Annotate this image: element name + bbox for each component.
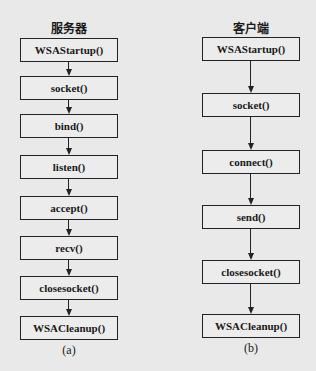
- client-arrow-line: [250, 117, 251, 143]
- arrow-down-icon: [66, 309, 72, 316]
- arrow-down-icon: [248, 198, 254, 205]
- arrow-down-icon: [66, 69, 72, 76]
- client-arrow-line: [250, 284, 251, 307]
- arrow-down-icon: [66, 269, 72, 276]
- client-arrow-line: [250, 174, 251, 198]
- arrow-down-icon: [248, 143, 254, 150]
- client-arrow-line: [250, 229, 251, 253]
- arrow-down-icon: [66, 189, 72, 196]
- client-step-connect: connect(): [202, 150, 300, 174]
- server-step-wsastartup: WSAStartup(): [20, 38, 118, 62]
- server-arrow-line: [68, 300, 69, 309]
- arrow-down-icon: [248, 86, 254, 93]
- arrow-down-icon: [66, 107, 72, 114]
- server-arrow-line: [68, 260, 69, 269]
- server-step-closesocket: closesocket(): [20, 276, 118, 300]
- arrow-down-icon: [66, 148, 72, 155]
- arrow-down-icon: [248, 253, 254, 260]
- client-step-wsacleanup: WSACleanup(): [202, 314, 300, 338]
- server-step-recv: recv(): [20, 236, 118, 260]
- client-step-send: send(): [202, 205, 300, 229]
- server-arrow-line: [68, 138, 69, 148]
- server-step-listen: listen(): [20, 155, 118, 179]
- arrow-down-icon: [66, 229, 72, 236]
- client-step-wsastartup: WSAStartup(): [202, 37, 300, 61]
- server-step-accept: accept(): [20, 196, 118, 220]
- client-step-socket: socket(): [202, 93, 300, 117]
- client-step-closesocket: closesocket(): [202, 260, 300, 284]
- client-caption: (b): [231, 341, 271, 356]
- server-title: 服务器: [19, 19, 119, 37]
- client-title: 客户端: [201, 19, 301, 37]
- server-arrow-line: [68, 179, 69, 189]
- server-step-wsacleanup: WSACleanup(): [20, 316, 118, 340]
- server-caption: (a): [49, 343, 89, 358]
- arrow-down-icon: [248, 307, 254, 314]
- server-step-socket: socket(): [20, 76, 118, 100]
- client-arrow-line: [250, 61, 251, 86]
- server-arrow-line: [68, 220, 69, 229]
- server-step-bind: bind(): [20, 114, 118, 138]
